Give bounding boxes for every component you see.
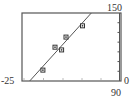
data-point-center (54, 46, 56, 48)
data-point-center (42, 69, 44, 71)
data-point-center (61, 49, 63, 51)
plot-frame (22, 13, 121, 81)
data-point-center (82, 25, 84, 27)
x-tick (82, 79, 83, 80)
regression-line (30, 13, 92, 81)
data-points (41, 24, 85, 72)
x-tick (43, 79, 44, 80)
scatter-plot: -25 150 0 90 (0, 0, 134, 103)
ymin-label: -25 (1, 75, 14, 86)
ymax-label: 150 (107, 2, 122, 13)
data-point-center (65, 36, 67, 38)
x-tick (101, 79, 102, 80)
xmax-label: 90 (111, 87, 121, 98)
x-axis-ticks (24, 79, 102, 80)
x-tick (24, 79, 25, 80)
xmin-label: 0 (124, 75, 129, 86)
x-tick (63, 79, 64, 80)
